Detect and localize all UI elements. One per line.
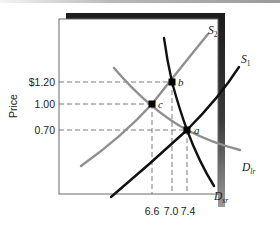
x-tick-6-6: 6.6	[145, 205, 160, 217]
x-tick-7-4: 7.4	[181, 205, 196, 217]
label-dlr: Dlr	[241, 161, 255, 176]
y-tick-1-00: 1.00	[35, 98, 56, 110]
point-a-marker	[184, 127, 191, 134]
y-tick-1-20: $1.20	[29, 76, 55, 88]
point-b-label: b	[178, 76, 184, 88]
frame-shadow-right	[218, 13, 225, 207]
label-s1: S1	[241, 53, 251, 68]
point-b-marker	[169, 79, 176, 86]
plot-frame	[59, 19, 218, 194]
point-a-label: a	[194, 124, 200, 136]
y-axis-label: Price	[7, 94, 19, 118]
point-c-marker	[149, 101, 156, 108]
x-tick-7-0: 7.0	[164, 205, 179, 217]
price-quantity-chart: b c a S2 S1 Dlr Dsr $1.20 1.00 0.70 Pric…	[0, 0, 280, 234]
point-c-label: c	[158, 98, 163, 110]
y-tick-0-70: 0.70	[35, 124, 56, 136]
